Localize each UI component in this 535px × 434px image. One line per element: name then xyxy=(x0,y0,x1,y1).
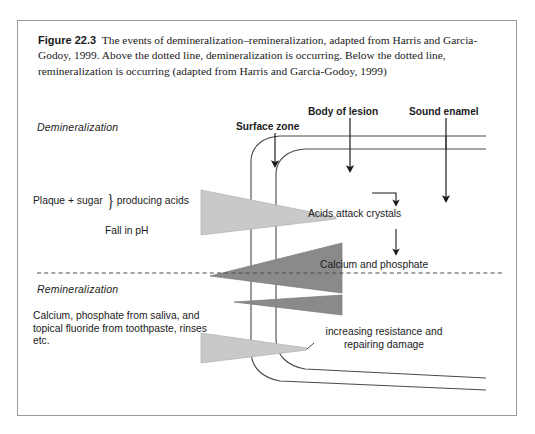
remineralization-sources-label: Calcium, phosphate from saliva, and topi… xyxy=(33,310,213,348)
figure-frame: Figure 22.3 The events of demineralizati… xyxy=(17,20,517,416)
calcium-and-phosphate-label: Calcium and phosphate xyxy=(320,259,428,270)
acids-attack-crystals-label: Acids attack crystals xyxy=(308,208,401,219)
fall-in-ph-label: Fall in pH xyxy=(105,225,149,236)
zone-label-remineralization: Remineralization xyxy=(37,283,118,295)
diagram-svg xyxy=(18,21,518,417)
remineralization-wedge xyxy=(201,333,307,363)
remineralization-connector xyxy=(307,343,314,349)
body-of-lesion-label: Body of lesion xyxy=(308,106,378,117)
diagram-canvas xyxy=(18,21,518,417)
zone-label-demineralization: Demineralization xyxy=(37,121,118,133)
figure-page: Figure 22.3 The events of demineralizati… xyxy=(0,0,535,434)
mineral-loss-wedge-lower xyxy=(234,295,342,315)
surface-zone-label: Surface zone xyxy=(236,121,299,132)
increasing-resistance-label: increasing resistance and repairing dama… xyxy=(314,325,454,351)
producing-acids-label: producing acids xyxy=(117,195,189,206)
acids-flow-connector xyxy=(372,193,396,203)
curly-brace-icon: } xyxy=(107,196,114,206)
plaque-sugar-group: Plaque + sugar}producing acids xyxy=(33,195,189,206)
plaque-sugar-label: Plaque + sugar xyxy=(33,195,103,206)
sound-enamel-label: Sound enamel xyxy=(409,106,479,117)
